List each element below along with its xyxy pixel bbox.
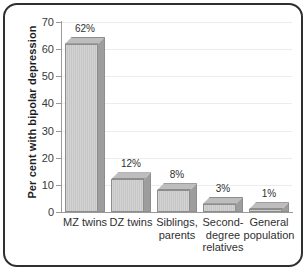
- y-tick-mark: [56, 131, 61, 132]
- y-tick-mark: [56, 49, 61, 50]
- bar-front-face: [249, 209, 282, 212]
- y-tick-label: 60: [30, 44, 54, 55]
- bar-value-label: 1%: [243, 189, 295, 199]
- bar-side-face: [98, 37, 105, 212]
- x-tick-label: Generalpopulation: [243, 216, 295, 241]
- y-tick-label: 10: [30, 180, 54, 191]
- y-tick-mark: [56, 76, 61, 77]
- bar-front-face: [111, 179, 144, 212]
- y-tick-mark: [56, 158, 61, 159]
- bar-front-face: [203, 204, 236, 212]
- bar-2[interactable]: [157, 22, 197, 212]
- plot-area: 62%12%8%3%1%: [62, 22, 292, 212]
- bar-top-face: [203, 197, 243, 204]
- y-tick-label: 40: [30, 98, 54, 109]
- bar-top-face: [65, 37, 105, 44]
- bar-value-label: 3%: [197, 184, 249, 194]
- bar-top-face: [249, 202, 289, 209]
- bar-value-label: 8%: [151, 170, 203, 180]
- figure-container: Per cent with bipolar depression 7060504…: [0, 0, 308, 272]
- x-tick-label-line: parents: [151, 229, 203, 242]
- x-tick-label: Siblings,parents: [151, 216, 203, 241]
- bar-4[interactable]: [249, 22, 289, 212]
- x-axis-line: [61, 212, 293, 213]
- y-tick-label: 50: [30, 71, 54, 82]
- bar-top-face: [157, 183, 197, 190]
- x-tick-label: DZ twins: [105, 216, 157, 229]
- bar-top-face: [111, 172, 151, 179]
- y-tick-mark: [56, 103, 61, 104]
- x-tick-label-line: Siblings,: [151, 216, 203, 229]
- x-tick-label-line: degree: [197, 229, 249, 242]
- x-tick-label-line: relatives: [197, 241, 249, 254]
- x-tick-label: MZ twins: [59, 216, 111, 229]
- y-tick-label: 30: [30, 126, 54, 137]
- x-tick-label-line: MZ twins: [59, 216, 111, 229]
- y-tick-mark: [56, 185, 61, 186]
- y-tick-mark: [56, 212, 61, 213]
- x-tick-label-line: Second-: [197, 216, 249, 229]
- y-tick-label: 70: [30, 17, 54, 28]
- x-tick-label-line: DZ twins: [105, 216, 157, 229]
- bar-value-label: 62%: [59, 24, 111, 34]
- x-tick-label-line: General: [243, 216, 295, 229]
- x-tick-label-line: population: [243, 229, 295, 242]
- bar-front-face: [157, 190, 190, 212]
- bar-front-face: [65, 44, 98, 212]
- y-tick-label: 0: [30, 207, 54, 218]
- x-tick-label: Second-degreerelatives: [197, 216, 249, 254]
- bar-0[interactable]: [65, 22, 105, 212]
- bar-1[interactable]: [111, 22, 151, 212]
- y-tick-label: 20: [30, 153, 54, 164]
- bar-value-label: 12%: [105, 159, 157, 169]
